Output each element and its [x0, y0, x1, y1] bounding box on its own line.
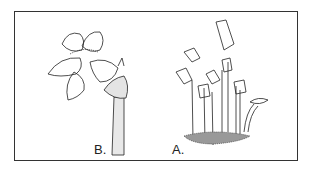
plant-cluster-drawing — [176, 20, 268, 145]
flower-closeup-drawing — [48, 32, 128, 155]
panel-label-b: B. — [94, 142, 106, 157]
panel-label-a: A. — [172, 142, 184, 157]
botanical-illustration — [0, 0, 314, 172]
